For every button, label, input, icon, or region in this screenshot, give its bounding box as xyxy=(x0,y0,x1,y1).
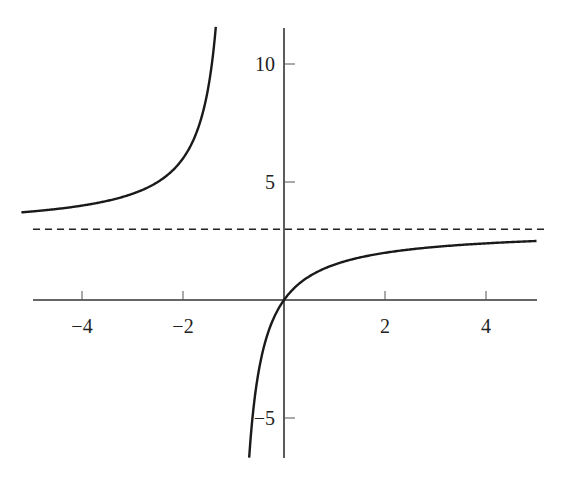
x-tick-label: 2 xyxy=(380,315,390,337)
x-ticks: −4−224 xyxy=(71,291,491,337)
y-tick-label: 5 xyxy=(265,171,275,193)
x-tick-label: −2 xyxy=(172,315,193,337)
curve-left-branch xyxy=(21,27,215,212)
x-tick-label: −4 xyxy=(71,315,92,337)
axes xyxy=(33,28,537,458)
y-tick-label: 10 xyxy=(255,53,275,75)
chart: −4−224 105−5 xyxy=(0,0,571,480)
y-tick-label: −5 xyxy=(254,407,275,429)
x-tick-label: 4 xyxy=(481,315,491,337)
curve-right-branch xyxy=(249,241,536,458)
y-ticks: 105−5 xyxy=(254,53,295,429)
